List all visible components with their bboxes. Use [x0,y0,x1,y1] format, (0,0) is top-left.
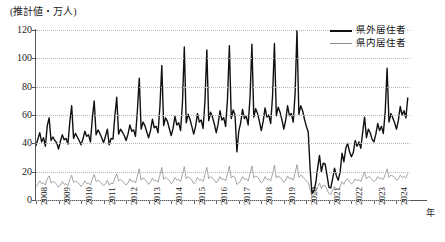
gridline [36,143,410,144]
gridline [36,172,410,173]
y-axis-tick-mark [32,200,35,201]
legend-label-outside: 県外居住者 [356,24,406,37]
gridline [36,200,410,201]
y-axis-tick-mark [32,115,35,116]
legend-swatch-inside-icon [330,43,352,44]
gridline [36,58,410,59]
y-axis-tick-label: 120 [2,25,32,35]
y-axis-tick-mark [32,172,35,173]
y-axis-tick-label: 60 [2,110,32,120]
gridline [36,115,410,116]
legend-item-outside: 県外居住者 [330,24,406,37]
legend-item-inside: 県内居住者 [330,37,406,50]
series-line-outside [36,30,408,194]
y-axis-tick-label: 100 [2,53,32,63]
y-axis-tick-label: 40 [2,138,32,148]
legend-label-inside: 県内居住者 [356,37,406,50]
y-axis-tick-mark [32,87,35,88]
gridline [36,87,410,88]
y-axis-tick-mark [32,30,35,31]
chart-container: (推計値・万人) 020406080100120 200820092010201… [0,0,445,242]
y-axis-tick-mark [32,143,35,144]
y-axis-tick-mark [32,58,35,59]
chart-legend: 県外居住者 県内居住者 [330,24,406,50]
x-axis-unit-label: 年 [426,206,435,219]
series-line-inside [36,165,408,197]
y-axis-tick-label: 20 [2,167,32,177]
y-axis-tick-label: 0 [2,195,32,205]
y-axis-tick-label: 80 [2,82,32,92]
plot-area [36,30,410,200]
legend-swatch-outside-icon [330,30,352,32]
y-axis-unit-label: (推計値・万人) [10,6,77,18]
